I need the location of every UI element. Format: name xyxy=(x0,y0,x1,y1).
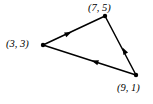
vertex-dot-9-1 xyxy=(134,73,138,77)
vertex-dot-3-3 xyxy=(41,43,45,47)
vertex-label-3-3: (3, 3) xyxy=(6,39,29,50)
edge-b-c-arrowhead xyxy=(91,58,99,65)
vertex-label-9-1: (9, 1) xyxy=(117,83,140,94)
edge-a-b-arrowhead xyxy=(64,30,73,38)
vertex-dot-7-5 xyxy=(103,14,107,18)
vertex-label-7-5: (7, 5) xyxy=(88,3,111,14)
edge-a-b xyxy=(43,16,105,45)
diagram-canvas: (7, 5) (3, 3) (9, 1) xyxy=(0,0,153,104)
